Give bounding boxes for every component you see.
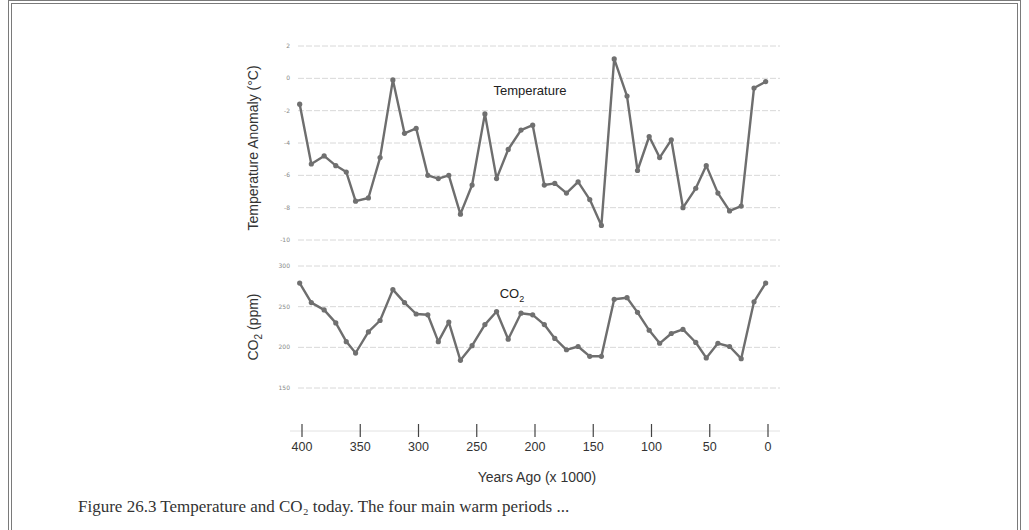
data-point bbox=[446, 320, 451, 325]
data-point bbox=[469, 343, 474, 348]
data-point bbox=[333, 320, 338, 325]
data-point bbox=[377, 318, 382, 323]
y-tick-label: 2 bbox=[286, 42, 290, 49]
temp-gridlines bbox=[298, 46, 780, 240]
data-point bbox=[494, 309, 499, 314]
data-point bbox=[635, 310, 640, 315]
data-point bbox=[402, 131, 407, 136]
x-tick-label: 200 bbox=[525, 440, 546, 454]
data-point bbox=[482, 322, 487, 327]
data-point bbox=[657, 341, 662, 346]
data-point bbox=[297, 280, 302, 285]
data-point bbox=[458, 358, 463, 363]
data-point bbox=[693, 186, 698, 191]
data-point bbox=[333, 163, 338, 168]
data-point bbox=[599, 354, 604, 359]
y-tick-label: 300 bbox=[279, 262, 291, 269]
data-point bbox=[309, 161, 314, 166]
data-point bbox=[506, 147, 511, 152]
data-point bbox=[494, 176, 499, 181]
data-point bbox=[425, 312, 430, 317]
data-point bbox=[458, 212, 463, 217]
x-tick-label: 150 bbox=[583, 440, 604, 454]
data-point bbox=[751, 299, 756, 304]
co2-y-ticks: 300250200150 bbox=[279, 262, 291, 391]
data-point bbox=[576, 179, 581, 184]
co2-y-axis-label: CO2 (ppm) bbox=[245, 293, 264, 360]
data-point bbox=[587, 197, 592, 202]
x-tick-label: 350 bbox=[350, 440, 371, 454]
data-point bbox=[414, 126, 419, 131]
data-point bbox=[693, 340, 698, 345]
data-point bbox=[739, 356, 744, 361]
data-point bbox=[680, 327, 685, 332]
data-point bbox=[366, 329, 371, 334]
y-tick-label: 250 bbox=[279, 303, 291, 310]
data-point bbox=[763, 79, 768, 84]
x-tick-label: 250 bbox=[466, 440, 487, 454]
data-point bbox=[542, 322, 547, 327]
data-point bbox=[552, 336, 557, 341]
data-point bbox=[624, 94, 629, 99]
data-point bbox=[469, 182, 474, 187]
data-point bbox=[353, 199, 358, 204]
data-point bbox=[599, 223, 604, 228]
data-point bbox=[353, 350, 358, 355]
y-tick-label: -10 bbox=[280, 236, 290, 243]
data-point bbox=[414, 311, 419, 316]
y-tick-label: 200 bbox=[279, 343, 291, 350]
data-point bbox=[518, 127, 523, 132]
data-point bbox=[763, 280, 768, 285]
data-point bbox=[552, 181, 557, 186]
y-tick-label: -4 bbox=[284, 139, 290, 146]
y-tick-label: 0 bbox=[286, 74, 290, 81]
x-tick-label: 300 bbox=[408, 440, 429, 454]
data-point bbox=[530, 312, 535, 317]
data-point bbox=[739, 203, 744, 208]
data-point bbox=[366, 195, 371, 200]
data-point bbox=[587, 354, 592, 359]
data-point bbox=[322, 307, 327, 312]
data-point bbox=[576, 344, 581, 349]
data-point bbox=[530, 123, 535, 128]
co2-gridlines bbox=[298, 266, 780, 388]
x-tick-label: 400 bbox=[292, 440, 313, 454]
data-point bbox=[727, 208, 732, 213]
data-point bbox=[647, 328, 652, 333]
data-point bbox=[390, 287, 395, 292]
data-point bbox=[657, 155, 662, 160]
data-point bbox=[680, 205, 685, 210]
x-axis-label: Years Ago (x 1000) bbox=[478, 469, 597, 485]
data-point bbox=[297, 102, 302, 107]
data-point bbox=[612, 297, 617, 302]
data-point bbox=[425, 173, 430, 178]
figure-caption: Figure 26.3 Temperature and CO₂ today. T… bbox=[78, 497, 569, 517]
series-line bbox=[300, 283, 766, 360]
data-point bbox=[322, 153, 327, 158]
x-tick-label: 50 bbox=[703, 440, 717, 454]
data-point bbox=[518, 311, 523, 316]
data-point bbox=[390, 77, 395, 82]
data-point bbox=[344, 170, 349, 175]
data-point bbox=[436, 176, 441, 181]
data-point bbox=[564, 191, 569, 196]
data-point bbox=[402, 300, 407, 305]
y-tick-label: -8 bbox=[284, 204, 290, 211]
data-point bbox=[436, 339, 441, 344]
x-tick-label: 100 bbox=[641, 440, 662, 454]
temp-y-axis-label: Temperature Anomaly (°C) bbox=[245, 65, 261, 230]
y-tick-label: 150 bbox=[279, 384, 291, 391]
data-point bbox=[727, 344, 732, 349]
data-point bbox=[715, 341, 720, 346]
data-point bbox=[612, 56, 617, 61]
data-point bbox=[635, 168, 640, 173]
data-point bbox=[542, 182, 547, 187]
data-point bbox=[669, 331, 674, 336]
data-point bbox=[669, 137, 674, 142]
data-point bbox=[377, 155, 382, 160]
data-point bbox=[704, 355, 709, 360]
y-tick-label: -6 bbox=[284, 171, 290, 178]
data-point bbox=[715, 191, 720, 196]
co2-series-line bbox=[297, 280, 768, 362]
